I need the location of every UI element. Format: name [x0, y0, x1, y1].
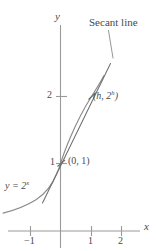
- ytick-label-2: 2: [47, 89, 52, 100]
- curve-equation-base: y = 2: [5, 180, 26, 191]
- xtick-label-1: 1: [88, 235, 93, 246]
- xtick-label-minus1: −1: [24, 235, 35, 246]
- point-h-label: (h, 2h): [93, 89, 118, 101]
- exponential-curve: [3, 76, 104, 214]
- y-axis-label: y: [55, 10, 60, 22]
- figure-canvas: [0, 0, 156, 251]
- point-h-label-base: (h, 2: [93, 90, 111, 101]
- exponential-secant-figure: [0, 0, 156, 251]
- x-axis-label: x: [144, 220, 149, 232]
- xtick-label-2: 2: [118, 235, 123, 246]
- secant-line-label: Secant line: [89, 16, 138, 28]
- point-h-label-close: ): [115, 90, 118, 101]
- curve-equation-exponent: x: [26, 179, 29, 186]
- point-origin-label: (0, 1): [68, 155, 90, 166]
- curve-equation-label: y = 2x: [5, 179, 29, 191]
- ytick-label-1: 1: [50, 156, 55, 167]
- secant-line: [43, 64, 111, 204]
- secant-label-leader: [109, 31, 114, 59]
